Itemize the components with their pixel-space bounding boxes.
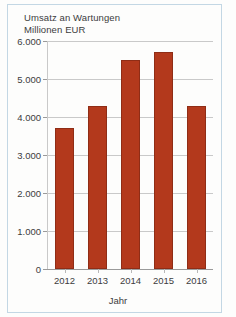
bar-chart: Umsatz an Wartungen Millionen EUR 6.000 … (0, 0, 236, 317)
x-tick-label-2015: 2015 (153, 275, 174, 286)
x-tick-label-2014: 2014 (120, 275, 141, 286)
x-tick-mark-2015 (164, 269, 165, 273)
x-tick-mark-2013 (98, 269, 99, 273)
y-tick-mark-2000 (43, 193, 47, 194)
x-tick-label-2012: 2012 (54, 275, 75, 286)
y-tick-label-1000: 1.000 (17, 226, 41, 237)
y-tick-mark-3000 (43, 155, 47, 156)
chart-title: Umsatz an Wartungen (24, 12, 120, 23)
y-tick-label-3000: 3.000 (17, 150, 41, 161)
bar-2013 (88, 106, 107, 269)
y-tick-label-5000: 5.000 (17, 74, 41, 85)
x-tick-mark-2014 (131, 269, 132, 273)
x-tick-label-2013: 2013 (87, 275, 108, 286)
x-tick-label-2016: 2016 (186, 275, 207, 286)
bar-2014 (121, 60, 140, 269)
y-tick-label-0: 0 (36, 264, 41, 275)
plot-area: 6.000 5.000 4.000 3.000 2.000 1.000 (47, 41, 213, 269)
y-tick-label-2000: 2.000 (17, 188, 41, 199)
chart-page: Umsatz an Wartungen Millionen EUR 6.000 … (0, 0, 236, 317)
y-tick-mark-6000 (43, 41, 47, 42)
bar-2012 (55, 128, 74, 269)
y-tick-mark-5000 (43, 79, 47, 80)
bar-2016 (187, 106, 206, 269)
y-tick-label-6000: 6.000 (17, 36, 41, 47)
x-tick-mark-2012 (65, 269, 66, 273)
gridline-6000: 6.000 (47, 41, 213, 42)
y-tick-mark-1000 (43, 231, 47, 232)
x-axis-title: Jahr (0, 295, 236, 306)
y-tick-mark-0 (43, 269, 47, 270)
bar-2015 (154, 52, 173, 269)
y-tick-label-4000: 4.000 (17, 112, 41, 123)
chart-subtitle: Millionen EUR (24, 24, 86, 35)
x-tick-mark-2016 (197, 269, 198, 273)
y-tick-mark-4000 (43, 117, 47, 118)
